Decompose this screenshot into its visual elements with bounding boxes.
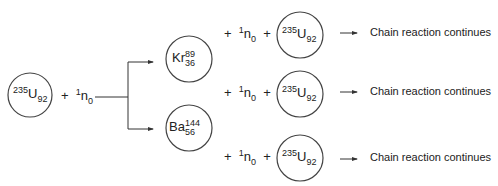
- uranium-row3: 235U92: [282, 149, 316, 164]
- krypton-label: Kr8936: [172, 50, 195, 68]
- chain-text-row2: Chain reaction continues: [370, 85, 491, 97]
- uranium-row1: 235U92: [282, 26, 316, 41]
- uranium-label: 235U92: [13, 86, 47, 101]
- neutron-row1: + 1n0 +: [224, 26, 271, 41]
- neutron-row2: + 1n0 +: [224, 85, 271, 100]
- chain-text-row1: Chain reaction continues: [370, 26, 491, 38]
- uranium-row2: 235U92: [282, 85, 316, 100]
- chain-text-row3: Chain reaction continues: [370, 151, 491, 163]
- fission-diagram: 235U92 + 1n0 Kr8936 Ba14456 + 1n0 + 235U…: [0, 0, 498, 186]
- neutron-row3: + 1n0 +: [224, 149, 271, 164]
- barium-label: Ba14456: [169, 119, 200, 137]
- neutron-label: + 1n0: [61, 88, 93, 103]
